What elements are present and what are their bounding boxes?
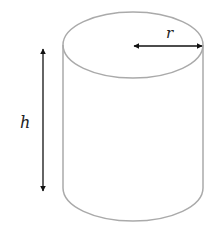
cylinder-outline xyxy=(63,12,203,221)
cylinder-bottom-arc xyxy=(63,188,203,221)
height-label: h xyxy=(20,113,30,132)
cylinder-top-ellipse xyxy=(63,12,203,78)
radius-label: r xyxy=(166,24,174,42)
cylinder-diagram: r h xyxy=(0,0,213,230)
